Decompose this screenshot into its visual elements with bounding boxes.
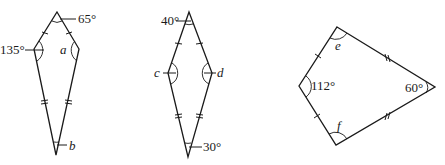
equal-side-tick bbox=[175, 114, 182, 115]
kite-2: 40° c d 30° bbox=[154, 12, 224, 157]
kite-3: e 112° 60° f bbox=[299, 27, 435, 145]
equal-side-tick bbox=[65, 100, 72, 101]
angle-arc-top bbox=[185, 24, 193, 25]
kites-diagram: 65° 135° a b 40° c d 30° bbox=[0, 0, 445, 165]
equal-side-tick bbox=[175, 43, 182, 44]
equal-side-tick bbox=[196, 114, 203, 115]
equal-side-tick bbox=[41, 103, 48, 104]
angle-label-f: f bbox=[337, 118, 343, 133]
kite-1: 65° 135° a b bbox=[0, 11, 96, 155]
angle-label-e: e bbox=[335, 38, 341, 53]
angle-arc-right bbox=[426, 82, 428, 93]
angle-label-112: 112° bbox=[311, 78, 335, 93]
angle-label-60: 60° bbox=[405, 80, 423, 95]
equal-side-tick bbox=[388, 112, 390, 119]
equal-side-tick bbox=[196, 117, 203, 118]
equal-side-tick bbox=[196, 43, 203, 44]
angle-label-40: 40° bbox=[161, 13, 179, 28]
angle-arc-top bbox=[52, 21, 62, 22]
angle-label-d: d bbox=[217, 65, 224, 80]
angle-label-135: 135° bbox=[0, 42, 25, 57]
angle-label-30: 30° bbox=[203, 139, 221, 154]
angle-label-b: b bbox=[69, 138, 76, 153]
angle-label-65: 65° bbox=[78, 11, 96, 26]
equal-side-tick bbox=[65, 103, 72, 104]
angle-label-a: a bbox=[60, 42, 67, 57]
equal-side-tick bbox=[41, 100, 48, 101]
kite-1-outline bbox=[34, 12, 79, 155]
kite-2-outline bbox=[168, 12, 212, 157]
equal-side-tick bbox=[175, 117, 182, 118]
angle-label-c: c bbox=[154, 65, 160, 80]
